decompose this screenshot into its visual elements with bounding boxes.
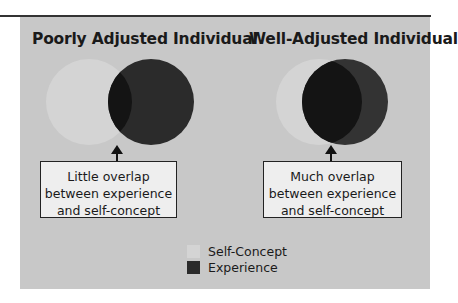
legend-label: Experience xyxy=(208,260,278,275)
legend: Self-Concept Experience xyxy=(187,243,287,275)
caption-line: Much overlap xyxy=(264,168,401,185)
overlap-region-left xyxy=(108,59,194,145)
poorly-adjusted-title: Poorly Adjusted Individual xyxy=(32,30,258,48)
self-concept-swatch xyxy=(187,245,200,258)
overlap-region-right xyxy=(302,59,388,145)
caption-line: and self-concept xyxy=(264,202,401,219)
caption-box-right: Much overlap between experience and self… xyxy=(263,161,402,218)
experience-swatch xyxy=(187,261,200,274)
legend-label: Self-Concept xyxy=(208,244,287,259)
caption-line: and self-concept xyxy=(41,202,176,219)
caption-line: between experience xyxy=(41,185,176,202)
well-adjusted-title: Well-Adjusted Individual xyxy=(249,30,458,48)
legend-item-experience: Experience xyxy=(187,259,287,275)
legend-item-self-concept: Self-Concept xyxy=(187,243,287,259)
arrow-stem-left xyxy=(116,153,118,161)
caption-line: between experience xyxy=(264,185,401,202)
caption-box-left: Little overlap between experience and se… xyxy=(40,161,177,218)
arrow-stem-right xyxy=(330,153,332,161)
caption-line: Little overlap xyxy=(41,168,176,185)
